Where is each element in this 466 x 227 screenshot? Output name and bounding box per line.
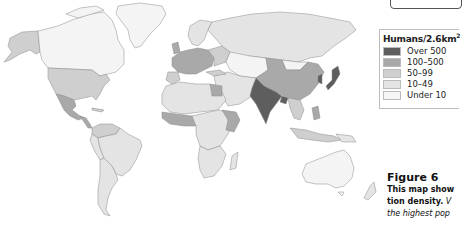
- legend-item-10-49: 10–49: [383, 79, 459, 90]
- caption-line-2: tion density. V: [387, 196, 466, 208]
- region-iberia: [166, 72, 180, 84]
- region-scandinavia: [188, 20, 212, 46]
- region-indonesia: [290, 128, 342, 142]
- region-greenland: [116, 3, 166, 48]
- map-legend: Humans/2.6km2 Over 500 100–500 50–99 10–…: [379, 29, 459, 109]
- region-southeast-asia: [288, 98, 304, 120]
- legend-item-under-10: Under 10: [383, 90, 459, 101]
- legend-label: 10–49: [407, 79, 433, 89]
- region-southern-africa: [198, 146, 226, 178]
- region-uk: [172, 42, 180, 54]
- legend-item-50-99: 50–99: [383, 68, 459, 79]
- legend-title: Humans/2.6km2: [383, 32, 459, 44]
- legend-swatch: [383, 47, 401, 56]
- legend-label: 50–99: [407, 68, 433, 78]
- legend-label: Under 10: [407, 90, 446, 100]
- legend-swatch: [383, 69, 401, 78]
- legend-swatch: [383, 80, 401, 89]
- legend-swatch: [383, 91, 401, 100]
- legend-label: Over 500: [407, 46, 446, 56]
- legend-item-100-500: 100–500: [383, 57, 459, 68]
- legend-swatch: [383, 58, 401, 67]
- region-korea: [318, 74, 322, 84]
- region-japan: [326, 66, 340, 90]
- caption-line-1: This map show: [387, 184, 466, 196]
- region-new-guinea: [336, 134, 356, 142]
- header-box: [390, 0, 462, 9]
- legend-label: 100–500: [407, 57, 444, 67]
- region-new-zealand: [364, 182, 376, 200]
- figure-caption: Figure 6 This map show tion density. V t…: [387, 171, 466, 220]
- region-alaska: [4, 31, 40, 62]
- legend-item-over-500: Over 500: [383, 46, 459, 57]
- region-egypt: [210, 84, 222, 96]
- region-tasmania: [338, 192, 344, 196]
- region-philippines: [312, 106, 320, 120]
- figure-label: Figure 6: [387, 171, 466, 184]
- region-canada: [38, 12, 124, 76]
- caption-line-3: the highest pop: [387, 208, 466, 220]
- region-central-america: [80, 116, 92, 128]
- region-australia: [302, 150, 354, 188]
- region-madagascar: [230, 152, 238, 170]
- region-caribbean: [92, 108, 104, 112]
